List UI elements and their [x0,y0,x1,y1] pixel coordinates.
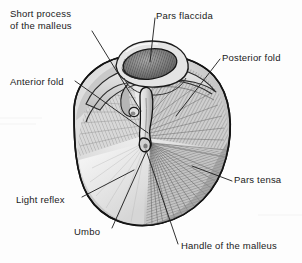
label-light-reflex: Light reflex [16,194,65,206]
label-pars-flaccida: Pars flaccida [156,10,213,22]
label-handle-of-the-malleus: Handle of the malleus [181,240,277,252]
umbo-core [143,143,147,148]
short-process-shadow [131,111,136,115]
malleus-handle-group [139,87,153,151]
label-anterior-fold: Anterior fold [10,76,64,88]
label-umbo: Umbo [74,226,100,238]
tympanic-membrane-diagram [0,0,302,263]
label-posterior-fold: Posterior fold [222,52,281,64]
anatomy-figure: Short process of the malleus Pars flacci… [0,0,302,263]
label-short-process-of-the-malleus: Short process of the malleus [10,8,72,31]
label-pars-tensa: Pars tensa [234,174,281,186]
